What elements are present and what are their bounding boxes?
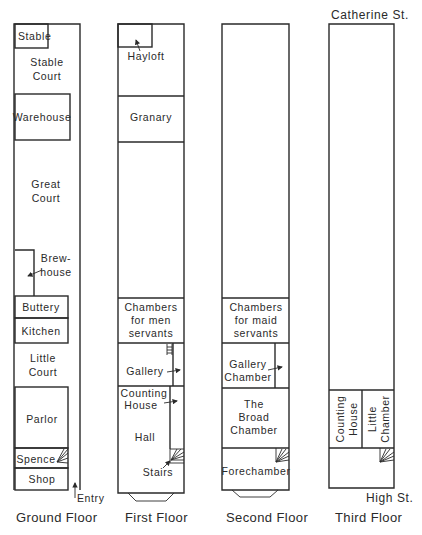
little-chamber-label-2: Chamber [379, 395, 391, 442]
first-floor-plan: Hayloft Granary Chambers for men servant… [118, 24, 188, 525]
brewhouse-room [15, 250, 34, 296]
little-court-label-2: Court [29, 366, 58, 378]
brewhouse-label: Brew- [41, 252, 71, 264]
catherine-street-label: Catherine St. [331, 8, 409, 22]
second-floor-bay-window [232, 490, 278, 497]
spence-label: Spence [16, 453, 55, 465]
chambers-maid-label-2: for maid [235, 314, 278, 326]
great-court-label-2: Court [32, 192, 61, 204]
third-floor-stairs-icon [380, 448, 394, 462]
counting-house-label: Counting [121, 387, 168, 399]
ground-floor-caption: Ground Floor [16, 510, 98, 525]
chambers-men-label-3: servants [129, 327, 173, 339]
spence-stairs-icon [57, 449, 68, 463]
hayloft-label: Hayloft [128, 50, 165, 62]
broad-chamber-label-3: Chamber [230, 424, 277, 436]
second-floor-stairs-icon [276, 448, 289, 462]
forechamber-label: Forechamber [221, 465, 290, 477]
high-street-label: High St. [366, 491, 414, 505]
chambers-maid-label: Chambers [229, 301, 282, 313]
little-court-label: Little [30, 352, 56, 364]
shop-label: Shop [29, 473, 56, 485]
buttery-label: Buttery [22, 301, 60, 313]
chambers-men-label-2: for men [131, 314, 171, 326]
second-floor-caption: Second Floor [226, 510, 308, 525]
chambers-maid-label-3: servants [234, 327, 278, 339]
gallery-ladder-icon [167, 344, 172, 355]
first-floor-caption: First Floor [125, 510, 188, 525]
counting-house-label-2: House [124, 399, 157, 411]
warehouse-label: Warehouse [13, 111, 72, 123]
third-floor-plan: Catherine St. Counting House Little Cham… [329, 8, 414, 525]
hayloft-loft [118, 24, 152, 47]
stable-court-label-2: Court [33, 70, 62, 82]
stable-label: Stable [18, 30, 51, 42]
second-floor-plan: Chambers for maid servants Gallery Chamb… [221, 24, 308, 525]
first-floor-stairs-icon [170, 449, 184, 463]
stairs-label: Stairs [143, 466, 173, 478]
floor-plan-diagram: Stable Stable Court Warehouse Great Cour… [0, 0, 422, 535]
chambers-men-label: Chambers [124, 301, 177, 313]
granary-label: Granary [130, 111, 172, 123]
gallery-chamber-label: Gallery [229, 358, 267, 370]
broad-chamber-label: The [244, 398, 264, 410]
kitchen-label: Kitchen [21, 325, 60, 337]
first-floor-bay-window [128, 493, 174, 501]
hall-label: Hall [135, 431, 156, 443]
third-counting-house-label-2: House [347, 402, 359, 435]
third-counting-house-label: Counting [334, 396, 346, 443]
stable-court-label: Stable [30, 56, 63, 68]
great-court-label: Great [31, 178, 60, 190]
entry-label: Entry [77, 492, 105, 504]
ground-floor-plan: Stable Stable Court Warehouse Great Cour… [13, 24, 105, 525]
parlor-label: Parlor [26, 413, 58, 425]
first-floor-outer-wall [118, 24, 184, 493]
gallery-label: Gallery [126, 365, 164, 377]
gallery-chamber-label-2: Chamber [224, 371, 271, 383]
third-floor-caption: Third Floor [335, 510, 403, 525]
little-chamber-label: Little [366, 406, 378, 432]
brewhouse-label-2: house [40, 266, 72, 278]
broad-chamber-label-2: Broad [238, 411, 269, 423]
